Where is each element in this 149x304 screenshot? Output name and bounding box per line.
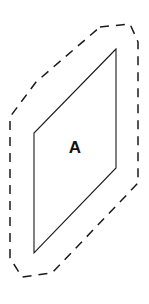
plane-label-a: A xyxy=(69,138,81,157)
geometry-figure: A xyxy=(0,0,149,304)
diagram-canvas: A xyxy=(0,0,149,304)
